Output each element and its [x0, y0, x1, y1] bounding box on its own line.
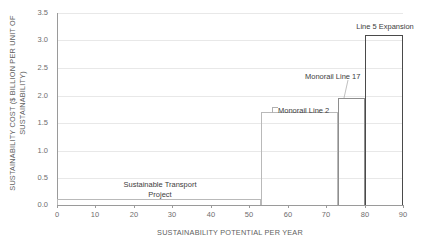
leader-monorail-line-17 — [300, 78, 350, 102]
x-tick-label-10: 10 — [80, 210, 110, 219]
x-tick-mark-50 — [249, 205, 250, 208]
gridline-2.5 — [57, 68, 403, 69]
x-tick-mark-90 — [403, 205, 404, 208]
x-tick-mark-30 — [172, 205, 173, 208]
bar-line-5-expansion[interactable] — [365, 35, 403, 205]
x-axis-title: SUSTAINABILITY POTENTIAL PER YEAR — [57, 228, 403, 237]
gridline-2.0 — [57, 96, 403, 97]
x-tick-mark-60 — [288, 205, 289, 208]
x-tick-label-0: 0 — [42, 210, 72, 219]
y-axis-line — [57, 13, 58, 205]
x-tick-mark-70 — [326, 205, 327, 208]
x-tick-mark-80 — [365, 205, 366, 208]
bar-monorail-line-17[interactable] — [338, 98, 365, 205]
annotation-sustainable-transport-project: Sustainable Transport Project — [100, 180, 220, 200]
x-tick-label-80: 80 — [350, 210, 380, 219]
x-tick-mark-40 — [211, 205, 212, 208]
y-axis-title: SUSTAINABILITY COST ($ BILLION PER UNIT … — [8, 3, 28, 203]
annotation-line-5-expansion: Line 5 Expansion — [345, 22, 425, 32]
x-tick-mark-0 — [57, 205, 58, 208]
x-tick-label-50: 50 — [234, 210, 264, 219]
x-tick-label-90: 90 — [388, 210, 418, 219]
annotation-monorail-line-2: Monorail Line 2 — [278, 106, 329, 116]
annotation-line-1: Sustainable Transport — [100, 180, 220, 190]
bar-monorail-line-2[interactable] — [261, 112, 338, 205]
chart-container: 3.5 3.0 2.5 2.0 1.5 1.0 0.5 0.0 0 10 20 … — [0, 0, 430, 251]
x-axis-line — [57, 205, 403, 206]
x-tick-label-60: 60 — [273, 210, 303, 219]
x-tick-label-30: 30 — [157, 210, 187, 219]
gridline-3.5 — [57, 13, 403, 14]
x-tick-mark-10 — [95, 205, 96, 208]
leader-monorail-line-2-horizontal — [272, 107, 278, 108]
x-tick-mark-20 — [134, 205, 135, 208]
x-tick-label-40: 40 — [196, 210, 226, 219]
x-tick-label-70: 70 — [311, 210, 341, 219]
gridline-3.0 — [57, 40, 403, 41]
annotation-line-2: Project — [100, 190, 220, 200]
x-tick-label-20: 20 — [119, 210, 149, 219]
